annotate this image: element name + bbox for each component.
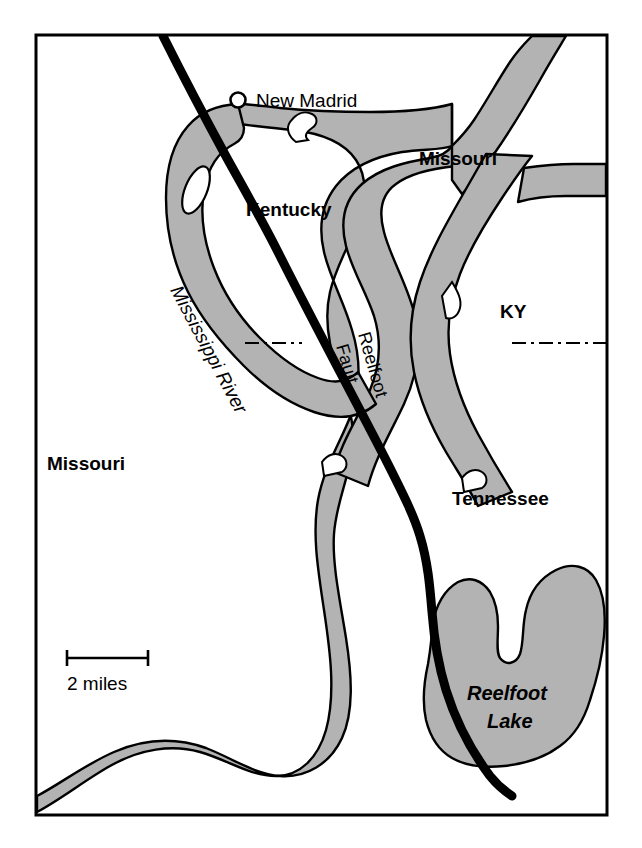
label-ky-abbr: KY (500, 301, 527, 322)
scale-bar-label: 2 miles (67, 673, 127, 694)
label-new-madrid: New Madrid (256, 90, 357, 111)
label-missouri-left: Missouri (47, 453, 125, 474)
label-tennessee: Tennessee (452, 488, 549, 509)
label-kentucky: Kentucky (246, 199, 332, 220)
label-reelfoot-lake-line1: Reelfoot (467, 682, 548, 704)
label-missouri-upper: Missouri (419, 148, 497, 169)
map-container: 2 miles New Madrid Kentucky Missouri Mis… (0, 0, 642, 848)
map-figure: 2 miles New Madrid Kentucky Missouri Mis… (0, 0, 642, 848)
new-madrid-city-marker (231, 93, 246, 108)
river-east-spur (518, 164, 606, 202)
label-reelfoot-lake-line2: Lake (487, 710, 533, 732)
